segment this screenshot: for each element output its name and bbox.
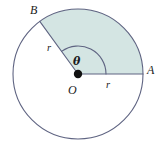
diagram-canvas bbox=[0, 0, 165, 148]
label-point-b: B bbox=[30, 4, 37, 16]
label-radius-oa: r bbox=[106, 80, 110, 91]
shaded-sector-aob bbox=[40, 9, 143, 74]
label-radius-ob: r bbox=[47, 43, 51, 54]
circle-sector-diagram: B A O θ r r bbox=[0, 0, 165, 148]
center-point-dot bbox=[74, 70, 82, 78]
label-angle-theta: θ bbox=[73, 56, 80, 67]
label-center-o: O bbox=[68, 84, 77, 96]
label-point-a: A bbox=[147, 64, 154, 76]
